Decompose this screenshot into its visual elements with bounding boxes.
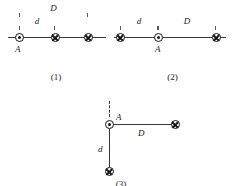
panel-1-caption: (1) xyxy=(0,72,112,82)
panel-2-dimension-d: d xyxy=(120,21,158,30)
panel-1-dimension-d: d xyxy=(19,21,55,30)
panel-2-caption: (2) xyxy=(112,72,233,82)
dimension-label-d: d xyxy=(120,17,158,26)
panel-1-point-label-A: A xyxy=(15,45,21,54)
current-into-page-cross-icon xyxy=(51,33,60,42)
current-into-page-cross-icon xyxy=(105,167,114,176)
current-out-of-page-dot-icon xyxy=(105,120,114,129)
current-into-page-cross-icon xyxy=(212,33,221,42)
panel-3-dimension-label-d: d xyxy=(98,145,103,154)
dimension-label-D: D xyxy=(158,17,216,26)
panel-1-dimension-D: D xyxy=(19,8,88,17)
current-into-page-cross-icon xyxy=(84,33,93,42)
panel-3-point-label-A: A xyxy=(116,113,122,122)
panel-3-wire-vertical xyxy=(109,124,110,171)
panel-2-dimension-D: D xyxy=(158,21,216,30)
current-out-of-page-dot-icon xyxy=(15,33,24,42)
current-into-page-cross-icon xyxy=(116,33,125,42)
panel-3: D d A (3) xyxy=(60,93,180,186)
current-into-page-cross-icon xyxy=(171,120,180,129)
panel-1: D d A (1) xyxy=(0,0,112,93)
panel-2-wire-line xyxy=(114,37,226,38)
dimension-label-D: D xyxy=(19,4,88,13)
panel-3-wire-horizontal xyxy=(109,124,175,125)
current-out-of-page-dot-icon xyxy=(154,33,163,42)
panel-3-caption: (3) xyxy=(88,179,154,186)
panel-2-point-label-A: A xyxy=(155,45,161,54)
panel-3-dimension-label-D: D xyxy=(138,129,145,138)
panel-2: d D A (2) xyxy=(112,0,233,93)
panel-3-dashed-guide xyxy=(109,101,110,117)
dimension-label-d: d xyxy=(19,17,55,26)
